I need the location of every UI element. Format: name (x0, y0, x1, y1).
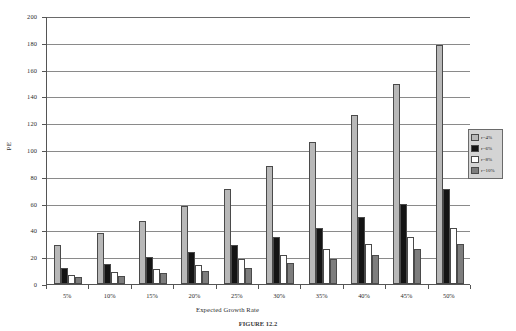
bar (280, 255, 287, 284)
bar (393, 84, 400, 284)
x-tick-mark (343, 285, 344, 289)
bar (160, 273, 167, 284)
bar (202, 271, 209, 284)
y-tick-label: 100 (27, 148, 37, 154)
bar (358, 217, 365, 284)
bar (54, 245, 61, 284)
y-axis-title: PE (5, 142, 13, 151)
legend-swatch-icon (471, 145, 479, 152)
plot-area (46, 17, 470, 285)
x-tick-label: 5% (63, 292, 72, 299)
y-tick-label: 120 (27, 121, 37, 127)
x-axis: 5%10%15%20%25%30%35%40%45%50% (46, 285, 470, 307)
bar (195, 265, 202, 284)
bar (68, 275, 75, 284)
bar (181, 206, 188, 284)
bar (224, 189, 231, 284)
x-tick-label: 50% (443, 292, 455, 299)
bar (457, 244, 464, 284)
x-tick-mark (46, 285, 47, 289)
legend-swatch-icon (471, 156, 479, 163)
legend-item-label: r=10% (481, 168, 495, 174)
x-tick-label: 15% (146, 292, 158, 299)
bar (231, 245, 238, 284)
x-tick-label: 10% (104, 292, 116, 299)
legend-item: r=10% (471, 165, 501, 176)
x-tick-label: 20% (189, 292, 201, 299)
x-tick-mark (300, 285, 301, 289)
x-tick-label: 40% (358, 292, 370, 299)
y-tick-label: 80 (30, 175, 37, 181)
y-tick-label: 20 (30, 255, 37, 261)
legend-item-label: r=8% (481, 157, 492, 163)
x-tick-mark (470, 285, 471, 289)
legend-item-label: r=4% (481, 135, 492, 141)
bar (287, 263, 294, 284)
bar (407, 237, 414, 284)
x-tick-mark (385, 285, 386, 289)
bar (97, 233, 104, 284)
y-tick-label: 180 (27, 41, 37, 47)
bar (450, 228, 457, 284)
x-tick-mark (428, 285, 429, 289)
bar (323, 249, 330, 284)
y-tick-label: 160 (27, 67, 37, 73)
x-tick-mark (173, 285, 174, 289)
legend-swatch-icon (471, 134, 479, 141)
bar (245, 268, 252, 284)
x-tick-mark (88, 285, 89, 289)
x-tick-label: 25% (231, 292, 243, 299)
legend-item: r=4% (471, 132, 501, 143)
figure-caption: FIGURE 12.2 (0, 320, 516, 331)
legend-item: r=6% (471, 143, 501, 154)
bar (118, 276, 125, 284)
x-tick-mark (131, 285, 132, 289)
bar (372, 255, 379, 284)
x-tick-label: 45% (401, 292, 413, 299)
bar (266, 166, 273, 284)
y-tick-label: 140 (27, 94, 37, 100)
bar (61, 268, 68, 284)
bar (111, 272, 118, 284)
x-tick-mark (258, 285, 259, 289)
bar (104, 264, 111, 284)
legend-item: r=8% (471, 154, 501, 165)
y-tick-label: 200 (27, 14, 37, 20)
x-tick-mark (216, 285, 217, 289)
bar (351, 115, 358, 284)
bar (238, 259, 245, 284)
bar (365, 244, 372, 284)
chart-legend: r=4% r=6% r=8% r=10% (468, 129, 503, 179)
legend-item-label: r=6% (481, 146, 492, 152)
bar (309, 142, 316, 284)
chart-figure: 020406080100120140160180200 PE 5%10%15%2… (0, 0, 516, 331)
bar (273, 237, 280, 284)
bar (75, 277, 82, 284)
bar (330, 259, 337, 284)
x-tick-label: 35% (316, 292, 328, 299)
y-tick-label: 40 (30, 228, 37, 234)
legend-swatch-icon (471, 167, 479, 174)
bar-series-container (47, 17, 470, 284)
x-tick-label: 30% (273, 292, 285, 299)
bar (316, 228, 323, 284)
bar (146, 257, 153, 284)
bar (400, 204, 407, 284)
bar (436, 45, 443, 284)
bar (443, 189, 450, 284)
y-tick-label: 0 (34, 282, 37, 288)
bar (188, 252, 195, 284)
bar (414, 249, 421, 284)
x-axis-title: Expected Growth Rate (196, 306, 259, 313)
bar (139, 221, 146, 284)
bar (153, 269, 160, 284)
y-tick-label: 60 (30, 201, 37, 207)
